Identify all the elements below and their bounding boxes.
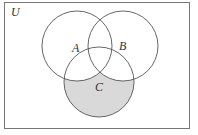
set-b-label: B (119, 39, 127, 53)
venn-diagram: U A B C (0, 0, 198, 135)
universe-label: U (11, 5, 21, 19)
set-a-label: A (71, 41, 80, 55)
set-c-label: C (95, 80, 104, 94)
